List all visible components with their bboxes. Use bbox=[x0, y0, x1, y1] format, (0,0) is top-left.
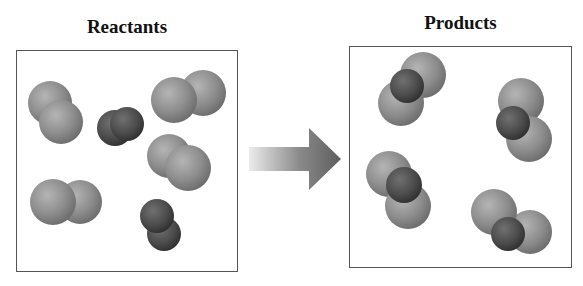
reaction-arrow-icon bbox=[249, 128, 341, 190]
reactant-molecule bbox=[28, 81, 83, 144]
dark-atom-icon bbox=[496, 106, 530, 140]
reactant-molecule bbox=[140, 199, 181, 251]
light-atom-icon bbox=[165, 145, 211, 191]
product-molecules bbox=[366, 52, 552, 254]
light-atom-icon bbox=[30, 179, 76, 225]
product-molecule bbox=[471, 189, 552, 254]
product-molecule bbox=[496, 78, 552, 162]
dark-atom-icon bbox=[140, 199, 174, 233]
product-molecule bbox=[378, 52, 446, 126]
dark-atom-icon bbox=[491, 217, 525, 251]
reactant-molecule bbox=[97, 107, 144, 146]
reaction-scene bbox=[0, 0, 583, 286]
reactant-molecule bbox=[151, 70, 226, 123]
reactant-molecule bbox=[147, 134, 211, 191]
dark-atom-icon bbox=[386, 167, 422, 203]
reactant-molecules bbox=[28, 70, 226, 251]
dark-atom-icon bbox=[390, 69, 424, 103]
reactant-molecule bbox=[30, 179, 102, 225]
light-atom-icon bbox=[151, 77, 197, 123]
product-molecule bbox=[366, 151, 431, 229]
dark-atom-icon bbox=[110, 107, 144, 141]
light-atom-icon bbox=[39, 100, 83, 144]
